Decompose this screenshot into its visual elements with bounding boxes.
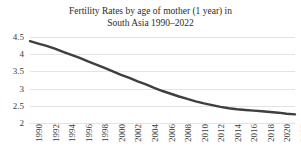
x-axis-tick-label: 1994 bbox=[67, 124, 77, 142]
x-axis-tick-label: 2008 bbox=[183, 124, 193, 142]
y-axis-tick-label: 3.5 bbox=[13, 66, 24, 76]
series-layer bbox=[30, 37, 295, 123]
y-axis-tick-label: 4 bbox=[20, 49, 25, 59]
x-axis-tick-label: 2016 bbox=[249, 124, 259, 142]
x-axis-tick-label: 2004 bbox=[150, 124, 160, 142]
x-axis-tick-label: 2002 bbox=[133, 124, 143, 142]
y-axis-tick-label: 3 bbox=[20, 84, 25, 94]
plot-area bbox=[30, 37, 295, 123]
x-axis-tick-label: 2012 bbox=[216, 124, 226, 142]
y-axis-tick-label: 2.5 bbox=[13, 101, 24, 111]
x-axis-tick-label: 2014 bbox=[233, 124, 243, 142]
x-axis-tick-label: 1996 bbox=[84, 124, 94, 142]
chart-title: Fertility Rates by age of mother (1 year… bbox=[0, 6, 301, 29]
x-axis-tick-label: 2006 bbox=[167, 124, 177, 142]
x-axis-tick-label: 2022 bbox=[299, 124, 301, 142]
y-axis-tick-label: 2 bbox=[20, 118, 25, 128]
series-line-fertility-rate bbox=[30, 41, 295, 114]
x-axis-tick-label: 2000 bbox=[117, 124, 127, 142]
x-axis-tick-label: 2018 bbox=[266, 124, 276, 142]
y-axis-tick-labels: 4.543.532.52 bbox=[0, 37, 26, 123]
fertility-rate-line-chart: Fertility Rates by age of mother (1 year… bbox=[0, 0, 301, 166]
x-axis-tick-label: 1998 bbox=[100, 124, 110, 142]
x-axis-tick-label: 1990 bbox=[34, 124, 44, 142]
y-axis-tick-label: 4.5 bbox=[13, 32, 24, 42]
x-axis-tick-label: 2020 bbox=[282, 124, 292, 142]
x-axis-tick-label: 2010 bbox=[200, 124, 210, 142]
x-axis-tick-labels: 1990199219941996199820002002200420062008… bbox=[30, 124, 295, 166]
x-axis-tick-label: 1992 bbox=[51, 124, 61, 142]
